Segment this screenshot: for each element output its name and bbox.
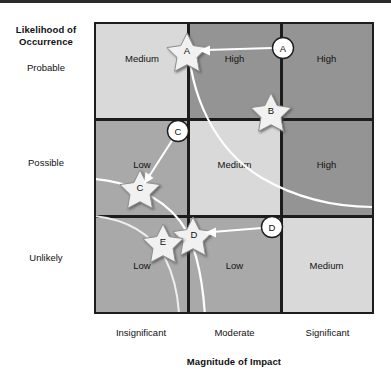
y-axis-title-line1: Likelihood of <box>0 24 92 36</box>
cell-label: Medium <box>125 53 159 64</box>
matrix-cell-unlikely-insignificant: Low <box>96 216 188 312</box>
y-tick-unlikely: Unlikely <box>0 252 92 263</box>
risk-matrix-grid: Medium High High Low Medium High Low Low… <box>94 22 374 314</box>
grid-vline-1 <box>187 24 190 312</box>
y-axis-title: Likelihood of Occurrence <box>0 24 92 47</box>
risk-matrix-figure: Likelihood of Occurrence Probable Possib… <box>0 0 391 382</box>
cell-label: High <box>317 159 337 170</box>
cell-label: Low <box>133 260 150 271</box>
matrix-cell-possible-moderate: Medium <box>188 119 281 216</box>
callout-circle-a-label: A <box>280 43 286 54</box>
risk-star-c-label: C <box>137 182 144 193</box>
matrix-cell-possible-significant: High <box>281 119 372 216</box>
matrix-cell-probable-insignificant: Medium <box>96 24 188 119</box>
cell-label: Low <box>226 260 243 271</box>
x-tick-significant: Significant <box>281 327 374 338</box>
grid-hline-2 <box>96 215 372 218</box>
callout-circle-c-label: C <box>175 126 182 137</box>
grid-hline-1 <box>96 118 372 121</box>
cell-label: High <box>225 53 245 64</box>
matrix-cell-probable-significant: High <box>281 24 372 119</box>
cell-label: Medium <box>310 260 344 271</box>
x-axis-title: Magnitude of Impact <box>94 356 374 367</box>
y-tick-probable: Probable <box>0 62 92 73</box>
matrix-cell-unlikely-significant: Medium <box>281 216 372 312</box>
x-tick-insignificant: Insignificant <box>94 327 188 338</box>
risk-star-e-label: E <box>160 236 166 247</box>
x-tick-moderate: Moderate <box>188 327 281 338</box>
cell-label: Low <box>133 159 150 170</box>
y-axis-title-line2: Occurrence <box>0 36 92 48</box>
risk-star-d-label: D <box>191 229 198 240</box>
risk-star-b-label: B <box>268 105 274 116</box>
callout-circle-d-label: D <box>269 222 276 233</box>
matrix-cell-unlikely-moderate: Low <box>188 216 281 312</box>
risk-star-a-label: A <box>184 45 190 56</box>
top-rule-divider <box>0 0 391 3</box>
cell-label: High <box>317 53 337 64</box>
cell-label: Medium <box>218 159 252 170</box>
grid-vline-2 <box>280 24 283 312</box>
y-tick-possible: Possible <box>0 157 92 168</box>
